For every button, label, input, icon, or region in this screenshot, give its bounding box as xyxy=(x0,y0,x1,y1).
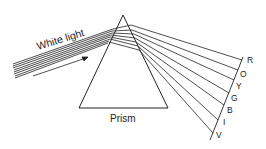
label-red: R xyxy=(247,55,253,65)
label-violet: V xyxy=(216,130,222,140)
label-green: G xyxy=(231,93,238,103)
label-orange: O xyxy=(240,69,247,79)
label-indigo: I xyxy=(223,117,225,127)
label-blue: B xyxy=(227,105,233,115)
label-yellow: Y xyxy=(236,81,242,91)
prism-label: Prism xyxy=(110,113,136,124)
prism-diagram: White light Prism R O Y G B I V xyxy=(0,0,266,149)
spectrum-labels: R O Y G B I V xyxy=(216,55,253,140)
white-light-label: White light xyxy=(35,26,85,52)
refracted-rays-inside xyxy=(109,25,139,50)
